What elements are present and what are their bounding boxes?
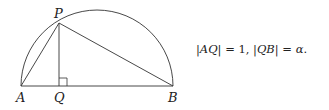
formula-period: .: [303, 42, 307, 56]
segment-AP: [21, 23, 59, 86]
label-Q: Q: [54, 90, 65, 105]
label-A: A: [15, 90, 25, 105]
right-angle-marker: [59, 78, 67, 86]
label-B: B: [167, 90, 178, 105]
formula-eq1: = 1,: [221, 42, 253, 56]
segment-PB: [59, 23, 173, 86]
formula-aq: |AQ|: [196, 42, 221, 56]
formula-qb: |QB|: [253, 42, 279, 56]
label-P: P: [53, 6, 63, 21]
length-formula: |AQ| = 1, |QB| = α.: [196, 42, 307, 56]
formula-eq2: =: [279, 42, 296, 56]
